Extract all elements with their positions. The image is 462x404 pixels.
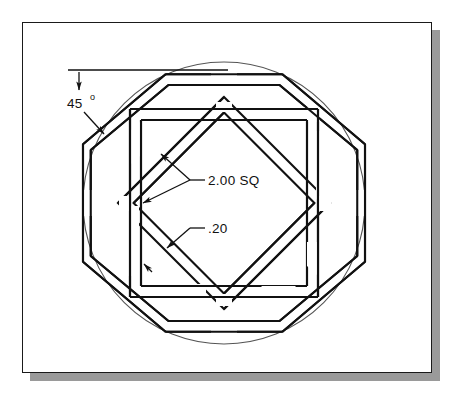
diamond-band [118, 97, 330, 309]
label-2-00-sq: 2.00 SQ [208, 173, 260, 188]
degree-symbol: o [90, 92, 95, 102]
label-45-degree: 45 [67, 96, 83, 111]
label-point-20: .20 [208, 221, 228, 236]
drawing-page: 45 o 2.00 SQ .20 [0, 0, 462, 404]
diamond-outer-edge [118, 97, 330, 309]
leader-tick-20 [144, 264, 152, 272]
technical-drawing: 45 o 2.00 SQ .20 [0, 0, 462, 404]
leader-line-45 [84, 112, 104, 134]
